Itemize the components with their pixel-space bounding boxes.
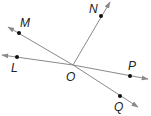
labels: MLNPQO [11,2,136,114]
point-N [99,14,103,18]
point-M [17,31,21,35]
points [15,14,132,98]
label-L: L [11,61,18,75]
label-M: M [20,16,30,30]
point-P [128,74,132,78]
label-Q: Q [114,100,123,114]
label-P: P [128,59,136,73]
label-N: N [89,2,98,16]
point-L [15,55,19,59]
point-Q [118,94,122,98]
label-O: O [66,70,75,84]
rays-diagram: MLNPQO [0,0,151,116]
